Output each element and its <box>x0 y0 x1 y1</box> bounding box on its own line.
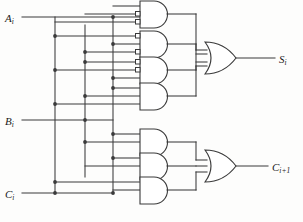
bubble-g3-in2 <box>136 68 141 73</box>
input-label-a: Ai <box>5 8 14 26</box>
input-label-c: Ci <box>5 184 14 202</box>
and-gate-2 <box>140 31 168 58</box>
output-label-sum: Si <box>279 49 287 67</box>
bubble-g1-in2 <box>136 12 141 17</box>
bubble-g3-in1 <box>136 60 141 65</box>
and-gate-1 <box>140 1 168 28</box>
and-gate-3 <box>140 57 168 84</box>
circuit-svg <box>0 0 303 222</box>
and-gate-5 <box>140 129 168 156</box>
bubble-g2-in3 <box>136 50 141 55</box>
and-gate-4 <box>140 83 168 110</box>
or-gate-carry <box>205 150 236 182</box>
and-gate-7 <box>140 177 168 204</box>
bubble-g2-in1 <box>136 34 141 39</box>
bubble-g1-in3 <box>136 20 141 25</box>
output-label-carry: Ci+1 <box>272 157 290 175</box>
or-gate-sum <box>205 42 236 74</box>
junction-dots <box>53 15 115 195</box>
circuit-diagram: Ai Bi Ci Si Ci+1 <box>0 0 303 222</box>
input-label-b: Bi <box>5 111 14 129</box>
and-gate-6 <box>140 153 168 180</box>
